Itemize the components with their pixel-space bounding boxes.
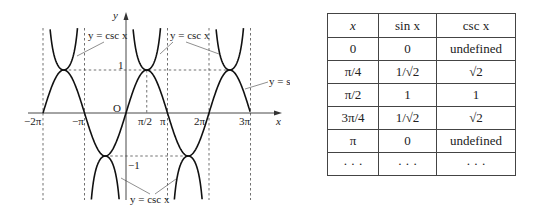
cell-csc: undefined bbox=[437, 130, 516, 153]
cell-csc: √2 bbox=[437, 61, 516, 84]
csc-curve bbox=[50, 28, 243, 199]
x-tick-neg-2pi: −2π bbox=[24, 115, 42, 127]
y-axis-arrow-icon bbox=[124, 12, 129, 20]
table-row: · · · · · · · · · bbox=[328, 153, 516, 176]
x-tick-2pi: 2π bbox=[194, 115, 206, 127]
cell-sin: 0 bbox=[379, 38, 437, 61]
cell-sin: 0 bbox=[379, 130, 437, 153]
values-table-container: x sin x csc x 0 0 undefined π/4 1/√2 √2 … bbox=[327, 13, 516, 176]
cell-csc: √2 bbox=[437, 107, 516, 130]
cell-x: π/4 bbox=[328, 61, 379, 84]
cell-x: 0 bbox=[328, 38, 379, 61]
table-row: π/4 1/√2 √2 bbox=[328, 61, 516, 84]
table-row: 3π/4 1/√2 √2 bbox=[328, 107, 516, 130]
header-x: x bbox=[328, 14, 379, 38]
x-tick-pi: π bbox=[160, 115, 166, 127]
x-tick-3pi: 3π bbox=[239, 115, 251, 127]
sin-csc-graph: y x O −2π −π π/2 π 2π 3π 1 −1 y = csc x … bbox=[0, 0, 290, 213]
sin-label: y = sin x bbox=[269, 75, 290, 87]
cell-csc: 1 bbox=[437, 84, 516, 107]
csc-label-top-right: y = csc x bbox=[170, 29, 210, 41]
values-table: x sin x csc x 0 0 undefined π/4 1/√2 √2 … bbox=[327, 13, 516, 176]
cell-sin: 1 bbox=[379, 84, 437, 107]
cell-sin: 1/√2 bbox=[379, 107, 437, 130]
cell-x: 3π/4 bbox=[328, 107, 379, 130]
cell-x: π bbox=[328, 130, 379, 153]
axes bbox=[28, 12, 282, 200]
y-tick-neg-1: −1 bbox=[128, 159, 140, 171]
header-sin: sin x bbox=[379, 14, 437, 38]
csc-label-top-left: y = csc x bbox=[88, 29, 128, 41]
x-tick-pi-over-2: π/2 bbox=[138, 115, 152, 127]
header-csc: csc x bbox=[437, 14, 516, 38]
table-row: π/2 1 1 bbox=[328, 84, 516, 107]
cell-csc: · · · bbox=[437, 153, 516, 176]
cell-sin: · · · bbox=[379, 153, 437, 176]
origin-label: O bbox=[113, 102, 121, 114]
y-tick-1: 1 bbox=[118, 59, 124, 71]
cell-sin: 1/√2 bbox=[379, 61, 437, 84]
csc-label-bottom: y = csc x bbox=[130, 193, 170, 205]
x-axis-label: x bbox=[275, 115, 281, 127]
cell-x: · · · bbox=[328, 153, 379, 176]
cell-csc: undefined bbox=[437, 38, 516, 61]
table-row: 0 0 undefined bbox=[328, 38, 516, 61]
cell-x: π/2 bbox=[328, 84, 379, 107]
y-axis-label: y bbox=[112, 9, 118, 21]
table-row: π 0 undefined bbox=[328, 130, 516, 153]
x-tick-neg-pi: −π bbox=[72, 115, 84, 127]
table-header-row: x sin x csc x bbox=[328, 14, 516, 38]
